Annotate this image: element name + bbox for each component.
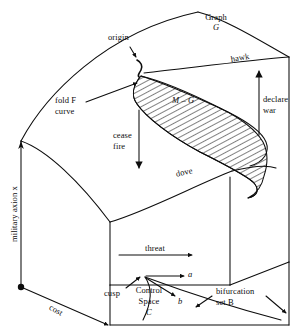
cease-fire-label-line1: cease: [113, 131, 132, 141]
dove-fold-edge: [110, 171, 232, 222]
declare-war-label-line2: war: [263, 106, 276, 116]
fold-curve-label-line2: curve: [55, 107, 74, 117]
region-M-minus-G: [133, 76, 266, 198]
origin-label: origin: [108, 33, 129, 43]
cease-fire-label-line2: fire: [113, 142, 125, 152]
control-axis-b-label: b: [178, 297, 182, 307]
bifurcation-set-label-line1: bifurcation: [216, 287, 254, 297]
declare-war-label-line1: declare: [263, 95, 288, 105]
bifurcation-set-label-line2: set B: [216, 298, 234, 308]
control-space-label-line2: Space: [122, 297, 176, 307]
figure-canvas: Graph G origin fold F curve M – G hawk d…: [0, 0, 297, 329]
fold-curve-label-line1: fold F: [55, 96, 76, 106]
control-axis-a-label: a: [188, 270, 192, 280]
control-space-symbol-label: C: [122, 308, 176, 318]
fold-leader-arrow: [86, 83, 137, 102]
threat-axis-label: threat: [145, 244, 165, 254]
catastrophe-diagram-drawing: [0, 0, 297, 329]
cusp-label: cusp: [104, 289, 120, 299]
hawk-fold-edge: [144, 57, 289, 73]
lower-left-edge: [21, 141, 110, 222]
control-space-label-line1: Control: [122, 286, 176, 296]
origin-marker-squiggle: [137, 60, 142, 77]
region-label-m-minus-g: M – G: [172, 96, 194, 106]
origin-leader-arrow: [130, 47, 136, 57]
axis-cost-line: [21, 287, 108, 325]
axis-vertical-label: military axion x: [10, 186, 20, 242]
graph-symbol-label: G: [195, 23, 237, 33]
bifurcation-leader-arrow-right: [266, 296, 286, 313]
control-back-right-diagonal: [230, 262, 289, 285]
